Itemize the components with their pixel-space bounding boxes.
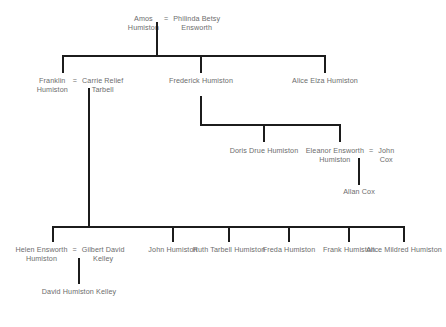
person-name-line1: Philinda Betsy (173, 14, 220, 23)
connector-drop-frederick (200, 55, 202, 73)
person-name-line2: Humiston (327, 76, 358, 85)
person-name-line1: Alice Mildred (366, 245, 408, 254)
person-alice-elza-humiston: Alice Elza Humiston (292, 76, 358, 85)
connector-drop-ruth (228, 226, 230, 242)
person-name-line1: Frederick (169, 76, 200, 85)
person-name-line1: Carrie Relief (82, 76, 123, 85)
person-name-line2: Humiston (306, 155, 364, 164)
person-name-line2: Humiston (411, 245, 442, 254)
person-franklin-humiston: Franklin Humiston (37, 76, 68, 94)
person-name-line2: Humiston (284, 245, 315, 254)
person-philinda-ensworth: Philinda Betsy Ensworth (173, 14, 220, 32)
person-name-line2: Humiston (128, 23, 159, 32)
marriage-symbol: = (68, 245, 82, 254)
marriage-symbol: = (364, 146, 378, 155)
person-name-line2: Kelley (96, 287, 116, 296)
connector-drop-eleanor (339, 124, 341, 142)
person-amos-humiston: Amos Humiston (128, 14, 159, 32)
connector-drop-alice-mildred (403, 226, 405, 242)
connector-gen3-sibling-bar (200, 124, 341, 126)
person-name-line2: Humiston (267, 146, 298, 155)
connector-drop-franklin (62, 55, 64, 73)
person-david-kelley: David Humiston Kelley (42, 287, 116, 296)
person-gilbert-kelley: Gilbert David Kelley (82, 245, 125, 263)
connector-gen1-descent (156, 22, 158, 55)
person-name-line2: Cox (362, 187, 375, 196)
connector-helen-gilbert-descent (78, 258, 80, 284)
person-name-line2: Humiston (37, 85, 68, 94)
connector-drop-frank (348, 226, 350, 242)
person-alice-mildred-humiston: Alice Mildred Humiston (366, 245, 442, 254)
person-name-line1: Franklin (39, 76, 65, 85)
connector-gen2-sibling-bar (62, 55, 326, 57)
person-name-line1: Eleanor Ensworth (306, 146, 364, 155)
person-name-line1: Amos (134, 14, 153, 23)
person-name-line1: Helen Ensworth (15, 245, 67, 254)
person-name-line2: Ensworth (173, 23, 220, 32)
person-name-line2: Humiston (202, 76, 233, 85)
connector-drop-alice-elza (324, 55, 326, 73)
person-frederick-humiston: Frederick Humiston (169, 76, 233, 85)
person-name-line1: John (148, 245, 164, 254)
person-name-line1: Gilbert David (82, 245, 125, 254)
person-name-line1: Doris Drue (230, 146, 265, 155)
person-ruth-humiston: Ruth Tarbell Humiston (193, 245, 266, 254)
couple-eleanor-john-cox: Eleanor Ensworth Humiston = John Cox (306, 146, 395, 164)
person-helen-humiston: Helen Ensworth Humiston (15, 245, 67, 263)
couple-amos-philinda: Amos Humiston = Philinda Betsy Ensworth (128, 14, 220, 32)
person-john-humiston: John Humiston (148, 245, 197, 254)
person-name-line2: Humiston (15, 254, 67, 263)
connector-drop-helen (52, 226, 54, 242)
person-name-line1: Ruth Tarbell (193, 245, 232, 254)
person-name-line2: Kelley (82, 254, 125, 263)
person-name-line1: Freda (263, 245, 282, 254)
person-john-cox: John Cox (378, 146, 394, 164)
person-doris-humiston: Doris Drue Humiston (230, 146, 299, 155)
person-freda-humiston: Freda Humiston (263, 245, 316, 254)
couple-helen-gilbert: Helen Ensworth Humiston = Gilbert David … (15, 245, 124, 263)
person-name-line1: John (378, 146, 394, 155)
person-name-line2: Humiston (234, 245, 265, 254)
connector-franklin-carrie-descent (88, 88, 90, 226)
couple-franklin-carrie: Franklin Humiston = Carrie Relief Tarbel… (37, 76, 124, 94)
connector-eleanor-john-descent (358, 158, 360, 185)
person-name-line1: Frank (323, 245, 342, 254)
connector-drop-john-humiston (172, 226, 174, 242)
person-name-line1: David Humiston (42, 287, 94, 296)
person-allan-cox: Allan Cox (343, 187, 375, 196)
person-name-line1: Allan (343, 187, 359, 196)
connector-drop-doris (263, 124, 265, 142)
person-eleanor-humiston: Eleanor Ensworth Humiston (306, 146, 364, 164)
connector-drop-freda (288, 226, 290, 242)
family-tree-diagram: Amos Humiston = Philinda Betsy Ensworth … (0, 0, 446, 327)
connector-frederick-descent (200, 96, 202, 126)
marriage-symbol: = (159, 14, 173, 23)
person-name-line1: Alice Elza (292, 76, 325, 85)
marriage-symbol: = (68, 76, 82, 85)
person-name-line2: Cox (378, 155, 394, 164)
